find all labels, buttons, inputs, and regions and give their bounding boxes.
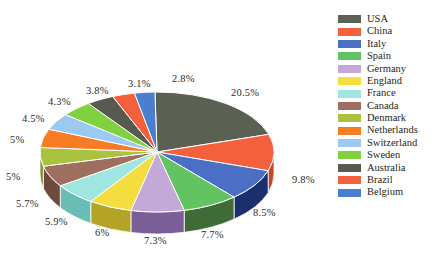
legend-item-label: Canada (367, 101, 399, 112)
legend-item-label: Brazil (367, 175, 393, 186)
legend-item[interactable]: China (338, 25, 443, 37)
pie-slice-percent-label: 4.3% (48, 97, 71, 108)
pie-slice-percent-label: 5.9% (45, 217, 68, 228)
legend-color-swatch (338, 114, 361, 122)
pie-chart-figure: 20.5%9.8%8.5%7.7%7.3%6%5.9%5.7%5%5%4.5%4… (0, 0, 443, 259)
pie-slice-side (131, 210, 184, 234)
legend-item-label: Sweden (367, 150, 400, 161)
legend-item-label: France (367, 88, 396, 99)
legend-color-swatch (338, 164, 361, 172)
pie-slice-percent-label: 7.3% (144, 236, 167, 247)
legend-item-label: Netherlands (367, 125, 418, 136)
pie-slice-percent-label: 5% (6, 172, 20, 183)
chart-plot-area: 20.5%9.8%8.5%7.7%7.3%6%5.9%5.7%5%5%4.5%4… (0, 0, 330, 259)
pie-slice-percent-label: 8.5% (253, 208, 276, 219)
pie-slice-percent-label: 20.5% (231, 88, 259, 99)
chart-legend: USAChinaItalySpainGermanyEnglandFranceCa… (338, 13, 443, 199)
legend-item[interactable]: Switzerland (338, 137, 443, 149)
legend-item-label: Australia (367, 163, 406, 174)
legend-color-swatch (338, 151, 361, 159)
legend-item-label: Spain (367, 51, 391, 62)
legend-item-label: Denmark (367, 113, 406, 124)
pie-slice-percent-label: 3.8% (86, 86, 109, 97)
pie-slice-percent-label: 6% (95, 228, 109, 239)
legend-item[interactable]: Sweden (338, 149, 443, 161)
legend-color-swatch (338, 139, 361, 147)
pie-slice-percent-label: 2.8% (172, 74, 195, 85)
legend-item[interactable]: Spain (338, 50, 443, 62)
legend-color-swatch (338, 28, 361, 36)
legend-color-swatch (338, 52, 361, 60)
pie-slice-percent-label: 9.8% (292, 175, 315, 186)
pie-slice-percent-label: 7.7% (201, 230, 224, 241)
legend-color-swatch (338, 102, 361, 110)
legend-item[interactable]: Italy (338, 38, 443, 50)
legend-item-label: Italy (367, 39, 386, 50)
pie-slice-percent-label: 5% (10, 135, 24, 146)
legend-color-swatch (338, 40, 361, 48)
legend-color-swatch (338, 176, 361, 184)
legend-item[interactable]: Belgium (338, 186, 443, 198)
pie-slice-percent-label: 3.1% (128, 79, 151, 90)
legend-item-label: Germany (367, 64, 406, 75)
legend-item[interactable]: Netherlands (338, 125, 443, 137)
legend-item-label: Switzerland (367, 138, 417, 149)
legend-item[interactable]: England (338, 75, 443, 87)
legend-item[interactable]: France (338, 87, 443, 99)
pie-slice-percent-label: 5.7% (16, 199, 39, 210)
pie-slice-percent-label: 4.5% (22, 114, 45, 125)
legend-item[interactable]: Australia (338, 162, 443, 174)
pie-top-faces (40, 92, 274, 212)
legend-item[interactable]: Denmark (338, 112, 443, 124)
legend-item-label: England (367, 76, 402, 87)
legend-color-swatch (338, 15, 361, 23)
legend-item[interactable]: Canada (338, 100, 443, 112)
legend-color-swatch (338, 127, 361, 135)
legend-item[interactable]: Germany (338, 63, 443, 75)
legend-color-swatch (338, 90, 361, 98)
legend-color-swatch (338, 189, 361, 197)
legend-item[interactable]: Brazil (338, 174, 443, 186)
legend-item[interactable]: USA (338, 13, 443, 25)
legend-color-swatch (338, 65, 361, 73)
legend-item-label: China (367, 26, 392, 37)
legend-item-label: Belgium (367, 187, 403, 198)
legend-item-label: USA (367, 14, 388, 25)
legend-color-swatch (338, 77, 361, 85)
